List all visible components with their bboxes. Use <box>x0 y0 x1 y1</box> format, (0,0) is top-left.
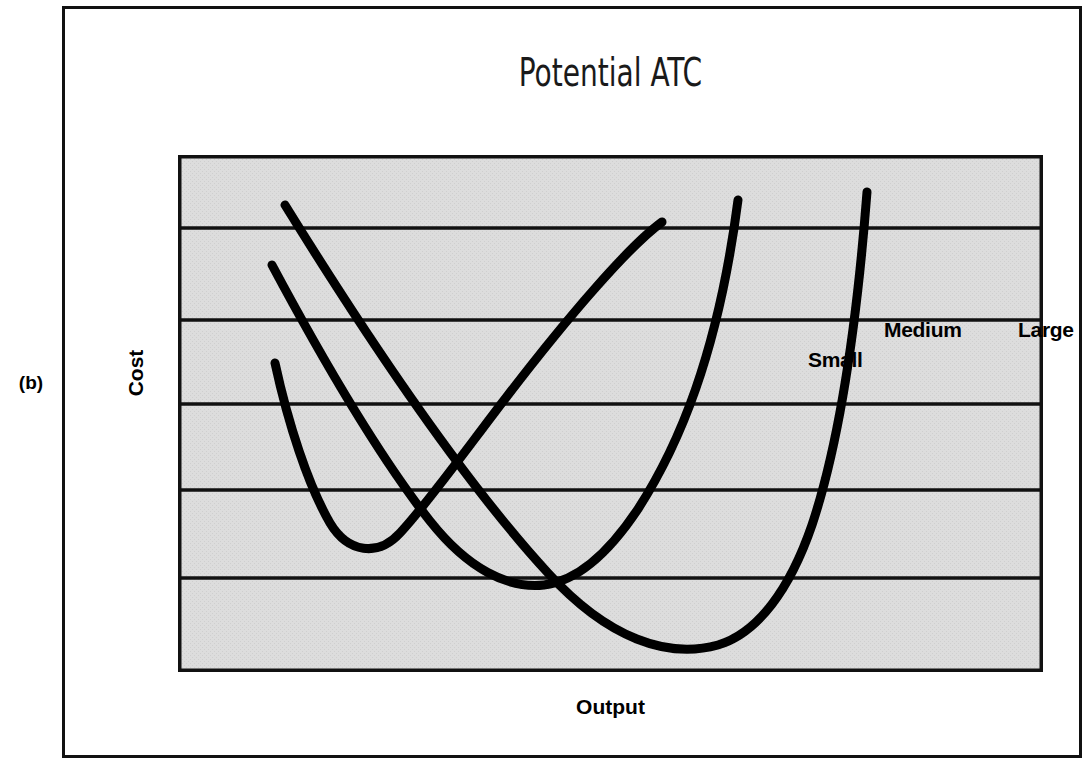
page-title: Potential ATC <box>265 50 957 95</box>
curve-label-small: Small <box>808 348 863 372</box>
y-axis-title: Cost <box>124 343 148 403</box>
chart-canvas <box>178 155 1043 672</box>
x-axis-title: Output <box>178 695 1043 719</box>
plot-area: Small Medium Large <box>178 155 1043 672</box>
panel-letter: (b) <box>4 372 58 394</box>
curve-label-large: Large <box>1018 318 1074 342</box>
plot-background <box>178 155 1043 672</box>
figure-root: (b) Potential ATC Cost Output <box>0 0 1090 765</box>
curve-label-medium: Medium <box>884 318 962 342</box>
